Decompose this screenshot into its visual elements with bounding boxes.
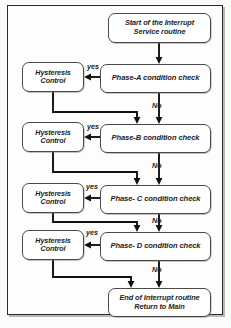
edge-label-yes-b: yes [87, 122, 99, 131]
edge-label-no-d: No [152, 265, 162, 274]
edge-hyst-a-return [53, 92, 137, 118]
edge-label-no-a: No [152, 101, 162, 110]
diagram-canvas: Start of the Interrupt Service routine P… [0, 0, 231, 328]
node-hysteresis-d-line2: Control [35, 245, 70, 253]
node-phase-d-condition-check[interactable]: Phase- D condition check [100, 232, 211, 261]
edge-label-no-c: No [152, 216, 162, 225]
node-phase-b-label: Phase-B condition check [111, 134, 199, 143]
arrowhead-hyst-b-return [134, 178, 141, 185]
arrowhead-phase-d-no [156, 281, 163, 288]
node-end[interactable]: End of Interrupt routine Return to Main [108, 288, 211, 317]
arrowhead-hyst-d-return [128, 281, 135, 288]
node-hysteresis-control-c[interactable]: Hysteresis Control [22, 183, 84, 213]
node-start[interactable]: Start of the Interrupt Service routine [108, 13, 211, 43]
arrowhead-phase-c-no [156, 225, 163, 232]
flowchart-page: Start of the Interrupt Service routine P… [0, 0, 231, 328]
node-phase-a-label: Phase-A condition check [112, 74, 200, 83]
node-start-line2: Service routine [125, 28, 194, 37]
node-phase-a-condition-check[interactable]: Phase-A condition check [100, 64, 211, 93]
edge-label-yes-d: yes [86, 228, 98, 237]
node-hysteresis-b-line2: Control [35, 137, 70, 145]
arrowhead-phase-b-yes [84, 134, 91, 141]
node-hysteresis-control-d[interactable]: Hysteresis Control [22, 230, 84, 260]
node-hysteresis-control-a[interactable]: Hysteresis Control [22, 62, 84, 92]
arrowhead-phase-b-no [156, 178, 163, 185]
arrowhead-hyst-c-return [134, 225, 141, 232]
arrowhead-hyst-a-return [134, 117, 141, 124]
edge-hyst-c-return [53, 213, 137, 226]
node-phase-d-label: Phase- D condition check [110, 242, 200, 251]
arrowhead-phase-c-yes [84, 195, 91, 202]
arrowhead-phase-a-yes [84, 74, 91, 81]
edge-label-yes-a: yes [87, 62, 99, 71]
node-hysteresis-control-b[interactable]: Hysteresis Control [22, 122, 84, 152]
node-hysteresis-a-line2: Control [35, 77, 70, 85]
edge-hyst-b-return [53, 152, 137, 179]
connector-layer [0, 0, 231, 328]
node-phase-c-condition-check[interactable]: Phase- C condition check [100, 185, 211, 214]
edge-label-no-b: No [152, 161, 162, 170]
edge-label-yes-c: yes [86, 182, 98, 191]
node-end-line2: Return to Main [119, 303, 199, 312]
arrowhead-phase-a-no [156, 117, 163, 124]
edge-hyst-d-return [53, 260, 131, 282]
arrowhead-start-to-phase-a [156, 57, 163, 64]
node-hysteresis-c-line2: Control [35, 198, 70, 206]
arrowhead-phase-d-yes [84, 242, 91, 249]
node-phase-b-condition-check[interactable]: Phase-B condition check [100, 124, 211, 153]
node-phase-c-label: Phase- C condition check [110, 195, 200, 204]
